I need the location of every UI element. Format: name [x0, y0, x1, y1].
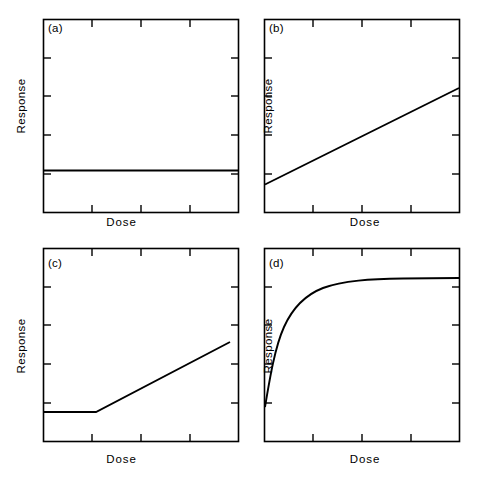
right-axis-ticks [452, 287, 459, 403]
panel-b: Response Dose (b) [243, 0, 487, 235]
panel-a-plot [0, 0, 243, 235]
panel-b-plot [243, 0, 487, 235]
data-curve [265, 88, 459, 185]
panel-d: Response Dose (d) [243, 235, 487, 484]
dose-response-figure: Response Dose (a) [0, 0, 487, 484]
right-axis-ticks [231, 287, 238, 403]
right-axis-ticks [452, 58, 459, 174]
panel-a: Response Dose (a) [0, 0, 243, 235]
top-axis-ticks [313, 249, 411, 256]
left-axis-ticks [44, 287, 51, 403]
top-axis-ticks [92, 20, 190, 27]
plot-frame [44, 20, 239, 213]
bottom-axis-ticks [92, 434, 190, 441]
bottom-axis-ticks [92, 205, 190, 212]
bottom-axis-ticks [313, 205, 411, 212]
bottom-axis-ticks [313, 434, 411, 441]
top-axis-ticks [313, 20, 411, 27]
left-axis-ticks [265, 58, 272, 174]
left-axis-ticks [44, 58, 51, 174]
panel-d-plot [243, 235, 487, 484]
top-axis-ticks [92, 249, 190, 256]
data-curve [44, 342, 231, 412]
data-curve [265, 278, 459, 407]
right-axis-ticks [231, 58, 238, 174]
plot-frame [265, 20, 460, 213]
panel-c: Response Dose (c) [0, 235, 243, 484]
panel-c-plot [0, 235, 243, 484]
